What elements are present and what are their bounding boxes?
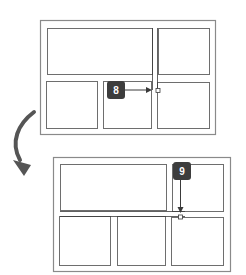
svg-text:9: 9 [179,166,185,177]
after-layout-diagram: 9 [54,158,231,272]
drag-handle[interactable] [179,215,183,219]
page-frame [41,21,216,135]
curved-arrow-down-right-icon [13,112,34,176]
step-badge-8: 8 [107,81,125,99]
page-frame [54,158,231,272]
drag-handle[interactable] [156,89,160,93]
step-badge-9: 9 [173,162,191,180]
before-layout-diagram: 8 [41,21,216,135]
svg-text:8: 8 [113,85,119,96]
